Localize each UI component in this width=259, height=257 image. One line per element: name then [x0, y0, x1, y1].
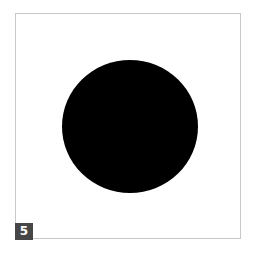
number-badge: 5 — [15, 223, 33, 240]
black-circle — [62, 60, 198, 193]
